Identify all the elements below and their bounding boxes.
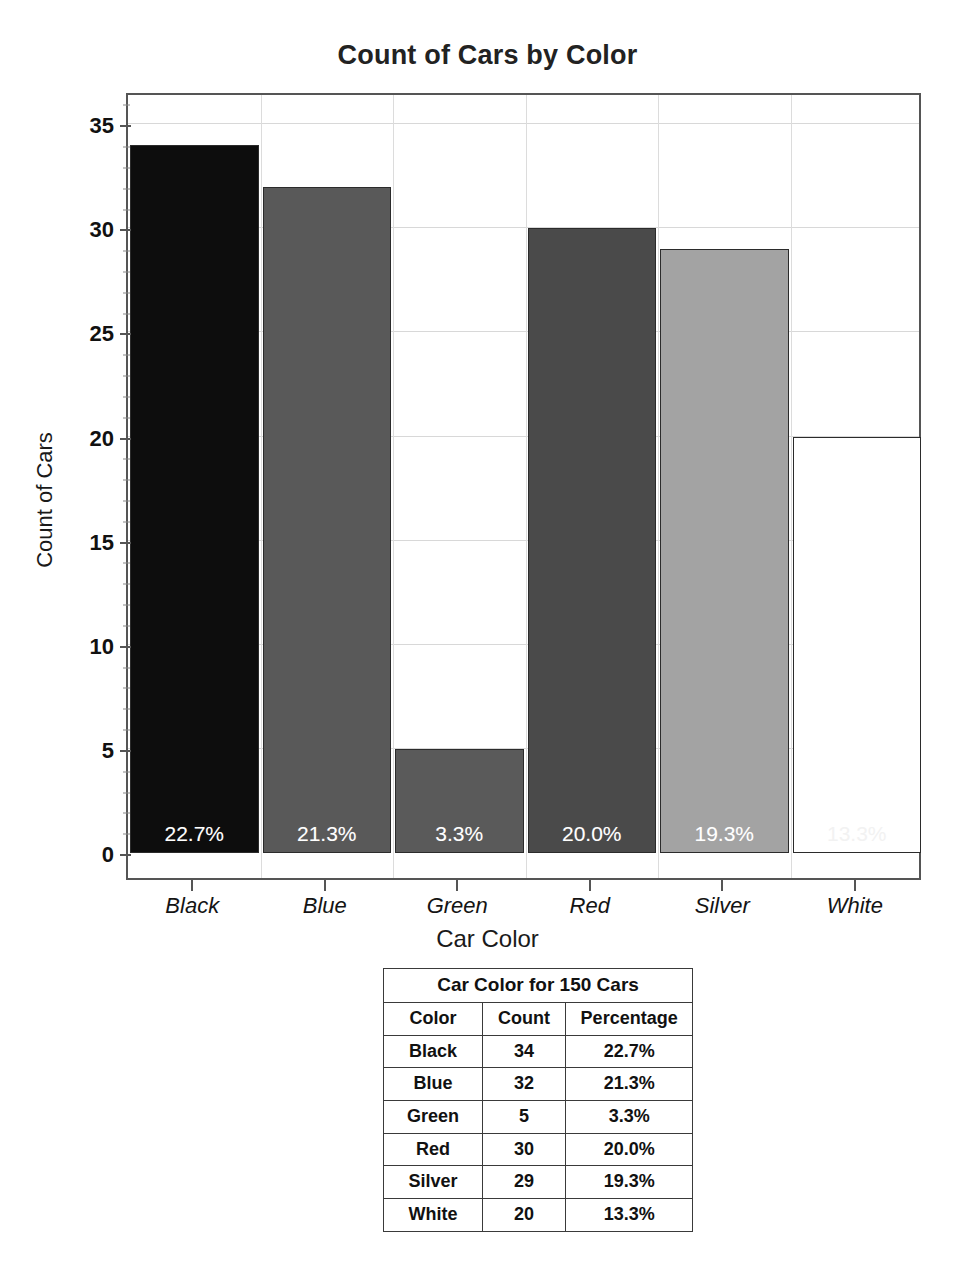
y-axis-tick-minor: [123, 271, 130, 272]
y-axis-tick-major: [120, 125, 131, 127]
cell-color: Silver: [384, 1166, 483, 1199]
bar-data-label: 3.3%: [396, 822, 523, 846]
bar-data-label: 19.3%: [661, 822, 788, 846]
table-header-count: Count: [482, 1002, 565, 1035]
gridline-vertical: [393, 95, 394, 878]
x-axis-tick-label-black: Black: [165, 893, 219, 919]
gridline-horizontal: [128, 123, 919, 124]
y-axis-tick-major: [120, 750, 131, 752]
y-axis-tick-minor: [123, 376, 130, 377]
y-axis-tick-minor: [123, 667, 130, 668]
bar-black: 22.7%: [130, 145, 259, 853]
table-caption: Car Color for 150 Cars: [384, 969, 693, 1003]
bar-red: 20.0%: [528, 228, 657, 853]
cell-count: 29: [482, 1166, 565, 1199]
table-row: Black3422.7%: [384, 1035, 693, 1068]
cell-count: 5: [482, 1100, 565, 1133]
cell-percentage: 22.7%: [566, 1035, 693, 1068]
plot-area: 22.7%21.3%3.3%20.0%19.3%13.3%: [126, 93, 921, 880]
table-header-row: Color Count Percentage: [384, 1002, 693, 1035]
y-axis-tick-minor: [123, 105, 130, 106]
table-row: Red3020.0%: [384, 1133, 693, 1166]
cell-count: 30: [482, 1133, 565, 1166]
bar-data-label: 21.3%: [264, 822, 391, 846]
y-axis-tick-major: [120, 229, 131, 231]
x-axis-tick: [191, 880, 193, 891]
y-axis-tick-label: 15: [58, 530, 114, 556]
y-axis-tick-minor: [123, 813, 130, 814]
chart-title: Count of Cars by Color: [0, 40, 975, 71]
x-axis-tick: [721, 880, 723, 891]
y-axis-tick-minor: [123, 730, 130, 731]
y-axis-tick-minor: [123, 167, 130, 168]
cell-percentage: 20.0%: [566, 1133, 693, 1166]
y-axis-tick-minor: [123, 501, 130, 502]
y-axis-tick-minor: [123, 209, 130, 210]
y-axis-tick-minor: [123, 834, 130, 835]
bar-green: 3.3%: [395, 749, 524, 853]
y-axis-tick-label: 0: [58, 842, 114, 868]
cell-count: 32: [482, 1068, 565, 1101]
x-axis-tick: [854, 880, 856, 891]
x-axis-tick-label-green: Green: [427, 893, 488, 919]
table-row: Green53.3%: [384, 1100, 693, 1133]
x-axis-tick-label-silver: Silver: [695, 893, 750, 919]
y-axis-tick-minor: [123, 771, 130, 772]
cell-color: Red: [384, 1133, 483, 1166]
gridline-vertical: [658, 95, 659, 878]
data-table-container: Car Color for 150 Cars Color Count Perce…: [383, 968, 693, 1232]
y-axis-tick-major: [120, 333, 131, 335]
y-axis-tick-major: [120, 438, 131, 440]
y-axis-tick-label: 10: [58, 634, 114, 660]
bar-data-label: 22.7%: [131, 822, 258, 846]
y-axis-tick-minor: [123, 188, 130, 189]
y-axis-tick-minor: [123, 709, 130, 710]
y-axis-tick-minor: [123, 605, 130, 606]
x-axis-tick-label-blue: Blue: [303, 893, 347, 919]
y-axis-tick-label: 30: [58, 217, 114, 243]
y-axis-title: Count of Cars: [32, 432, 58, 568]
x-axis-tick: [324, 880, 326, 891]
cell-percentage: 21.3%: [566, 1068, 693, 1101]
y-axis-tick-label: 35: [58, 113, 114, 139]
y-axis-tick-minor: [123, 417, 130, 418]
y-axis-tick-major: [120, 646, 131, 648]
cell-percentage: 3.3%: [566, 1100, 693, 1133]
cell-color: Black: [384, 1035, 483, 1068]
table-header-percentage: Percentage: [566, 1002, 693, 1035]
x-axis-title: Car Color: [0, 925, 975, 953]
y-axis-tick-minor: [123, 688, 130, 689]
chart-region: Count of Cars by Color 22.7%21.3%3.3%20.…: [0, 0, 975, 960]
table-row: White2013.3%: [384, 1198, 693, 1231]
table-row: Silver2919.3%: [384, 1166, 693, 1199]
gridline-vertical: [791, 95, 792, 878]
bar-blue: 21.3%: [263, 187, 392, 853]
bar-white: 13.3%: [793, 437, 922, 853]
cell-color: Blue: [384, 1068, 483, 1101]
y-axis-tick-minor: [123, 292, 130, 293]
bar-silver: 19.3%: [660, 249, 789, 853]
car-color-table: Car Color for 150 Cars Color Count Perce…: [383, 968, 693, 1232]
y-axis-tick-label: 5: [58, 738, 114, 764]
cell-color: White: [384, 1198, 483, 1231]
y-axis-tick-minor: [123, 251, 130, 252]
table-body: Black3422.7%Blue3221.3%Green53.3%Red3020…: [384, 1035, 693, 1231]
table-header-color: Color: [384, 1002, 483, 1035]
table-row: Blue3221.3%: [384, 1068, 693, 1101]
table-caption-row: Car Color for 150 Cars: [384, 969, 693, 1003]
y-axis-tick-major: [120, 854, 131, 856]
y-axis-tick-minor: [123, 584, 130, 585]
gridline-vertical: [526, 95, 527, 878]
x-axis-tick: [456, 880, 458, 891]
y-axis-tick-minor: [123, 521, 130, 522]
y-axis-tick-minor: [123, 396, 130, 397]
cell-count: 20: [482, 1198, 565, 1231]
y-axis-tick-major: [120, 542, 131, 544]
y-axis-tick-minor: [123, 563, 130, 564]
y-axis-tick-minor: [123, 355, 130, 356]
y-axis-tick-minor: [123, 459, 130, 460]
y-axis-tick-minor: [123, 625, 130, 626]
gridline-vertical: [261, 95, 262, 878]
y-axis-tick-minor: [123, 480, 130, 481]
y-axis-tick-label: 25: [58, 321, 114, 347]
